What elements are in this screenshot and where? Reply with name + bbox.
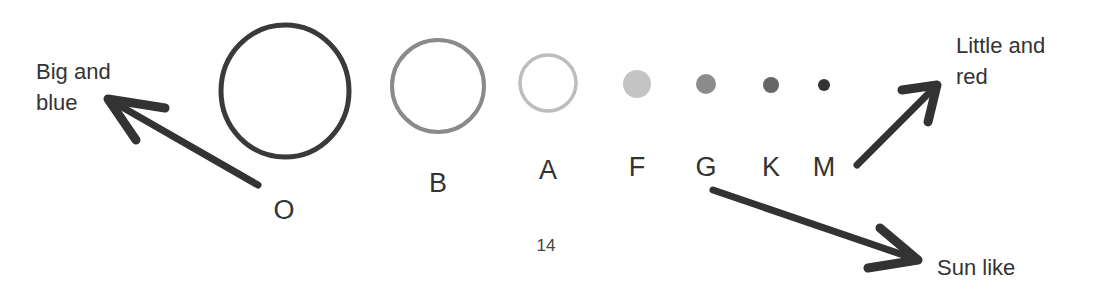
annotation-line: blue [36, 87, 111, 118]
class-label-o: O [273, 197, 294, 224]
annotation-big-and-blue: Big andblue [36, 56, 111, 118]
star-class-k-circle [763, 77, 779, 93]
star-class-o-circle [221, 25, 349, 157]
star-class-g-circle [696, 74, 716, 94]
class-label-b: B [429, 170, 447, 197]
annotation-line: Big and [36, 56, 111, 87]
arrow-m-to-little-red-icon [857, 85, 937, 165]
annotation-line: red [956, 61, 1045, 92]
star-class-a-circle [520, 55, 576, 111]
star-class-f-circle [623, 70, 651, 98]
star-class-m-circle [818, 79, 830, 91]
page-number: 14 [537, 236, 556, 256]
star-class-b-circle [392, 40, 484, 132]
arrow-o-to-big-blue-icon [108, 99, 258, 185]
annotation-little-and-red: Little andred [956, 30, 1045, 92]
arrow-g-to-sun-like-icon [713, 190, 918, 268]
class-label-a: A [539, 157, 557, 184]
class-label-f: F [629, 154, 646, 181]
class-label-k: K [762, 154, 780, 181]
annotation-line: Little and [956, 30, 1045, 61]
annotation-line: Sun like [937, 252, 1015, 283]
annotation-sun-like: Sun like [937, 252, 1015, 283]
class-label-m: M [813, 154, 836, 181]
class-label-g: G [695, 154, 716, 181]
